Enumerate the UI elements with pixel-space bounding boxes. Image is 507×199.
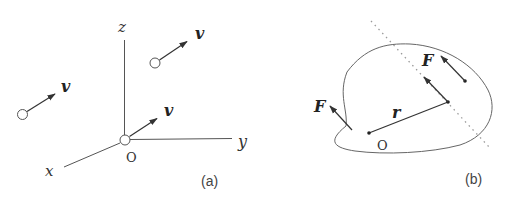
y-axis	[130, 139, 232, 140]
velocity-label: v	[195, 24, 205, 43]
velocity-arrow	[27, 94, 55, 112]
x-axis	[64, 143, 120, 167]
z-axis-label: z	[117, 18, 126, 36]
y-axis-label: y	[237, 132, 248, 151]
origin-label-b: O	[377, 138, 388, 153]
force-arrow	[424, 77, 448, 102]
velocity-label: v	[164, 101, 174, 120]
caption-b: (b)	[465, 171, 482, 187]
force-label: F	[421, 51, 435, 70]
panel-b: F F r O (b)	[313, 21, 492, 187]
velocity-arrow	[130, 119, 158, 137]
velocity-arrow	[160, 42, 188, 61]
rigid-body-outline	[335, 44, 492, 153]
particle-circle	[150, 58, 160, 68]
particle-circle-origin	[120, 135, 130, 145]
origin-point	[367, 131, 371, 135]
panel-a: z y x O v v v (a)	[18, 18, 249, 189]
particle-circle	[18, 110, 28, 120]
origin-label-a: O	[126, 150, 137, 165]
force-arrow	[441, 56, 465, 81]
force-arrow	[330, 106, 352, 130]
position-vector-r	[369, 102, 448, 133]
velocity-label: v	[61, 77, 71, 96]
x-axis-label: x	[45, 162, 54, 180]
caption-a: (a)	[201, 173, 218, 189]
force-label: F	[313, 97, 327, 116]
position-vector-label: r	[392, 103, 402, 122]
figure: z y x O v v v (a) F F r O (b)	[0, 0, 507, 199]
